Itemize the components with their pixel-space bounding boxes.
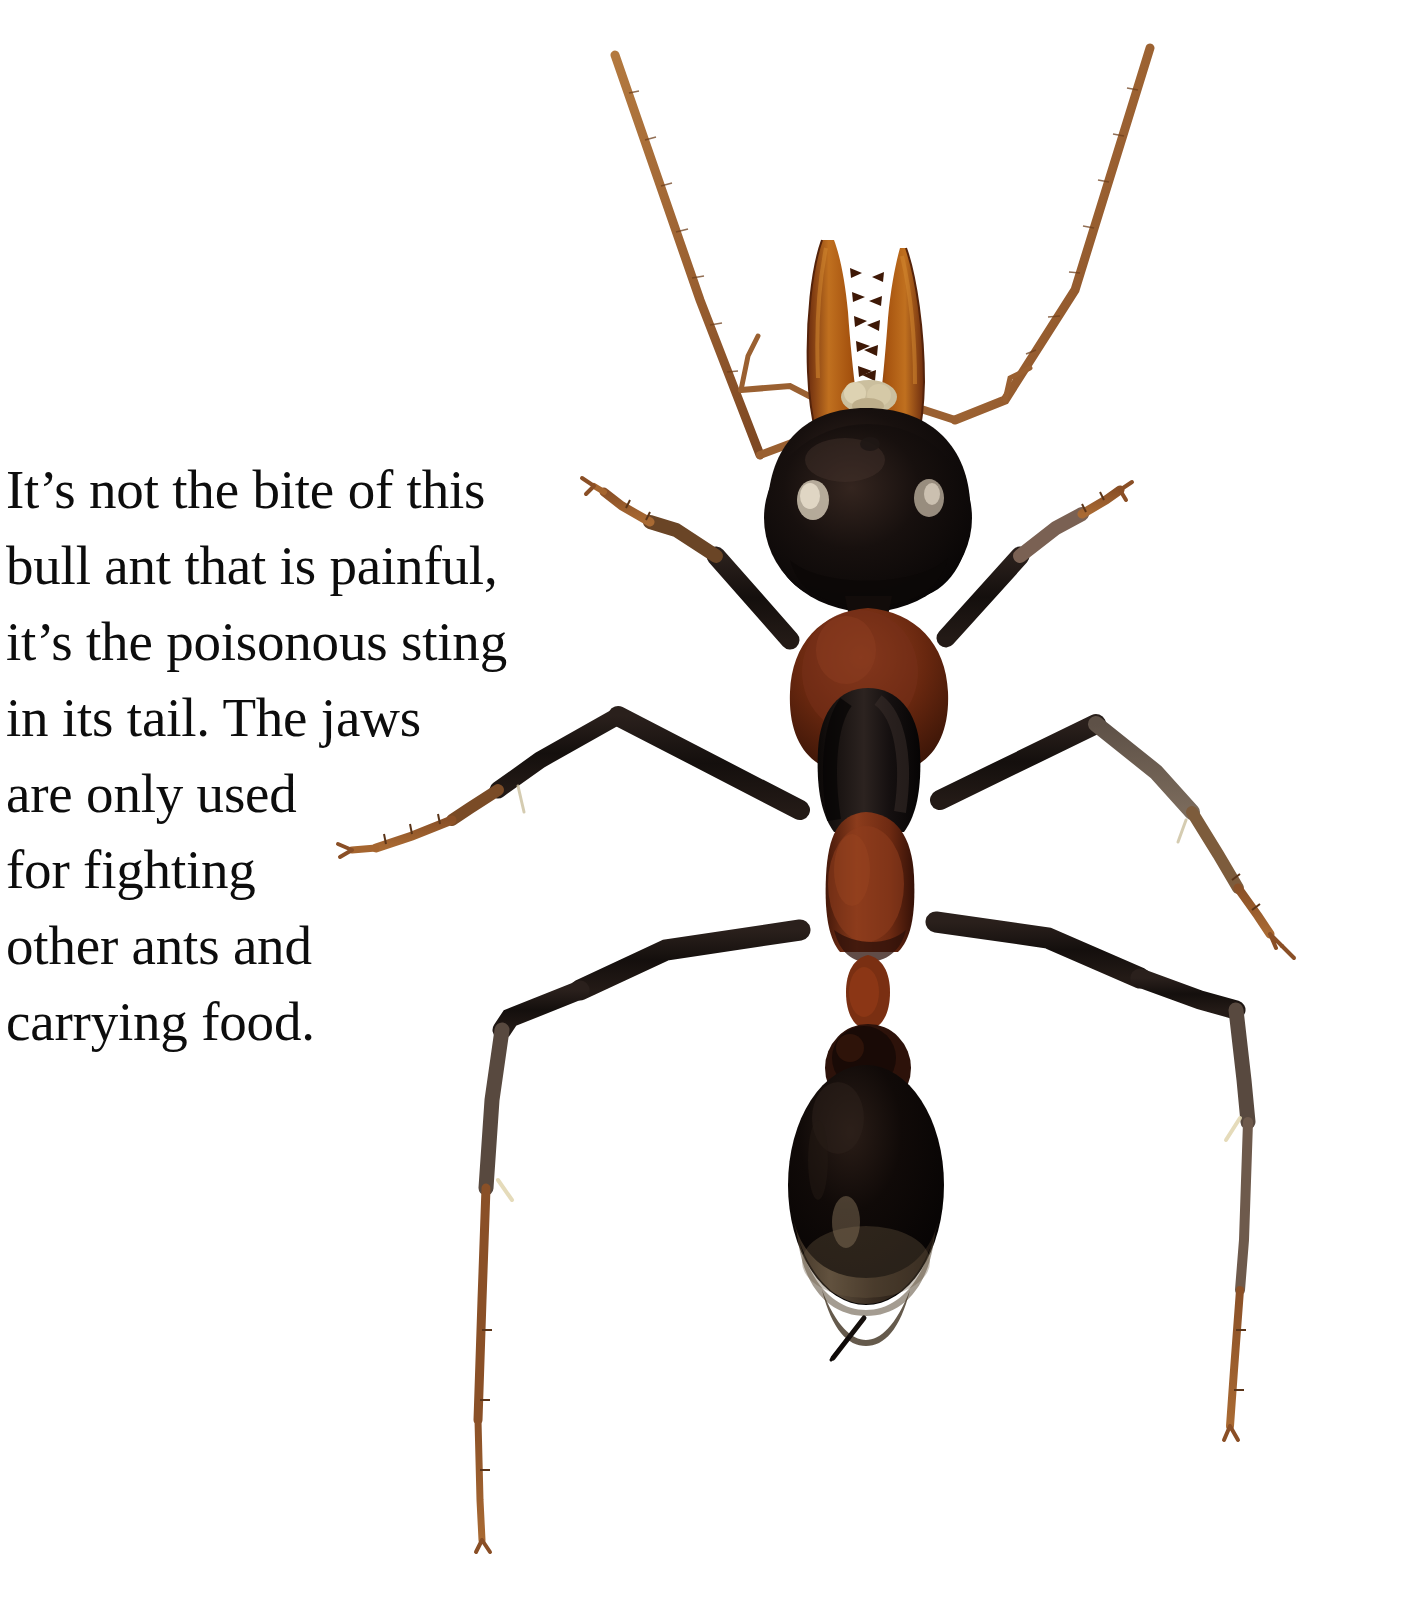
right-hindleg (936, 922, 1248, 1440)
propodeum (826, 812, 915, 962)
pronotum (790, 608, 948, 772)
right-midleg-tarsus-tip (1282, 946, 1294, 958)
page-root: It’s not the bite of this bull ant that … (0, 0, 1411, 1619)
right-mandible-teeth (858, 272, 884, 456)
petiole (846, 955, 890, 1030)
right-eye (914, 479, 944, 517)
right-midleg (940, 724, 1282, 948)
right-foreleg (946, 482, 1132, 638)
left-mandible-teeth (850, 268, 878, 452)
right-antenna (880, 48, 1150, 420)
mouthparts (841, 380, 897, 414)
caption-text: It’s not the bite of this bull ant that … (6, 452, 566, 1060)
head (764, 408, 972, 626)
left-mandible (808, 240, 878, 484)
sting (831, 1318, 864, 1360)
left-foreleg (582, 478, 790, 640)
gaster (788, 1065, 944, 1346)
right-mandible (858, 248, 924, 488)
left-antenna (615, 55, 845, 455)
mesonotum (818, 688, 921, 832)
left-eye (797, 480, 829, 520)
postpetiole (825, 1024, 911, 1112)
